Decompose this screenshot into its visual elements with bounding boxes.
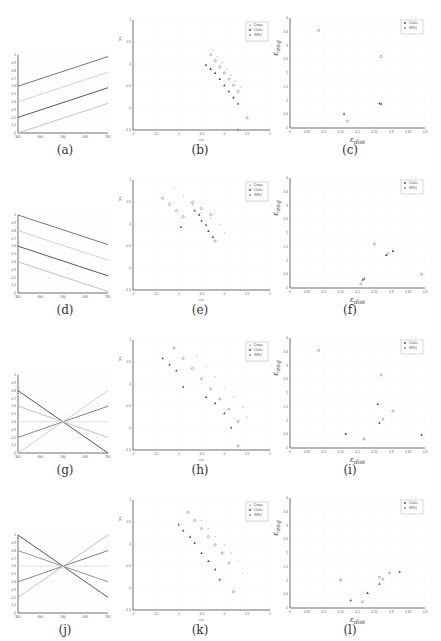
x-tick-label: 0.35 — [405, 610, 411, 614]
chart-f: 00.050.10.150.20.250.30.350.400.511.522.… — [0, 160, 441, 320]
legend-entry: SFU — [409, 505, 417, 510]
x-tick-label: 0.3 — [389, 130, 394, 134]
y-axis-label: εang — [271, 40, 282, 56]
y-axis-label: εang — [271, 520, 282, 536]
x-tick-label: 0 — [289, 290, 291, 294]
x-tick-label: 0.1 — [322, 450, 327, 454]
x-tick-label: 0.35 — [405, 130, 411, 134]
grid — [290, 178, 425, 288]
y-tick-label: 2.5 — [284, 217, 289, 221]
legend: OuluSFU — [401, 20, 423, 34]
y-tick-label: 0.5 — [284, 272, 289, 276]
subfigure-c: 00.050.10.150.20.250.30.350.400.511.522.… — [0, 0, 441, 160]
y-tick-label: 2.5 — [284, 377, 289, 381]
y-tick-label: 3 — [286, 524, 288, 528]
series-sfu — [318, 29, 383, 122]
y-tick-label: 4 — [286, 16, 288, 20]
x-tick-label: 0.15 — [338, 130, 344, 134]
grid — [290, 338, 425, 448]
chart-l: 00.050.10.150.20.250.30.350.400.511.522.… — [0, 480, 441, 640]
x-tick-label: 0.2 — [355, 130, 360, 134]
y-tick-label: 3.5 — [284, 510, 289, 514]
y-tick-label: 1.5 — [284, 85, 289, 89]
y-tick-label: 0 — [286, 126, 288, 130]
y-tick-label: 0 — [286, 606, 288, 610]
grid — [290, 18, 425, 128]
y-tick-label: 3.5 — [284, 350, 289, 354]
x-tick-label: 0.35 — [405, 290, 411, 294]
x-tick-label: 0.1 — [322, 130, 327, 134]
y-tick-label: 1.5 — [284, 405, 289, 409]
caption-i: (i) — [320, 463, 380, 477]
x-tick-label: 0.2 — [355, 450, 360, 454]
subfigure-l: 00.050.10.150.20.250.30.350.400.511.522.… — [0, 480, 441, 640]
y-tick-label: 0.5 — [284, 432, 289, 436]
chart-c: 00.050.10.150.20.250.30.350.400.511.522.… — [0, 0, 441, 160]
chart-i: 00.050.10.150.20.250.30.350.400.511.522.… — [0, 320, 441, 480]
y-axis-label: εang — [271, 200, 282, 216]
series-oulu — [361, 250, 394, 281]
x-tick-label: 0.1 — [322, 290, 327, 294]
grid — [290, 498, 425, 608]
x-tick-label: 0.4 — [423, 450, 428, 454]
y-axis-label: εang — [271, 360, 282, 376]
x-tick-label: 0.3 — [389, 450, 394, 454]
x-tick-label: 0 — [289, 130, 291, 134]
x-tick-label: 0.3 — [389, 610, 394, 614]
legend-entry: SFU — [409, 345, 417, 350]
y-tick-label: 2 — [286, 551, 288, 555]
y-tick-label: 4 — [286, 496, 288, 500]
x-tick-label: 0 — [289, 610, 291, 614]
caption-c: (c) — [320, 143, 380, 157]
x-tick-label: 0.35 — [405, 450, 411, 454]
x-tick-label: 0.15 — [338, 610, 344, 614]
subfigure-i: 00.050.10.150.20.250.30.350.400.511.522.… — [0, 320, 441, 480]
legend-entry: SFU — [409, 25, 417, 30]
x-tick-label: 0.05 — [304, 130, 310, 134]
legend: OuluSFU — [401, 500, 423, 514]
x-tick-label: 0.25 — [371, 450, 377, 454]
y-tick-label: 0.5 — [284, 592, 289, 596]
x-tick-label: 0.1 — [322, 610, 327, 614]
series-sfu — [318, 349, 394, 440]
x-tick-label: 0.4 — [423, 610, 428, 614]
y-tick-label: 1.5 — [284, 565, 289, 569]
y-tick-label: 1 — [286, 99, 288, 103]
y-tick-label: 4 — [286, 336, 288, 340]
caption-f: (f) — [320, 303, 380, 317]
subfigure-f: 00.050.10.150.20.250.30.350.400.511.522.… — [0, 160, 441, 320]
y-tick-label: 3.5 — [284, 30, 289, 34]
x-tick-label: 0.25 — [371, 610, 377, 614]
y-tick-label: 2 — [286, 71, 288, 75]
x-tick-label: 0.05 — [304, 610, 310, 614]
y-tick-label: 2.5 — [284, 57, 289, 61]
y-tick-label: 1 — [286, 419, 288, 423]
y-tick-label: 0 — [286, 446, 288, 450]
y-tick-label: 2.5 — [284, 537, 289, 541]
y-tick-label: 1 — [286, 259, 288, 263]
legend: OuluSFU — [401, 180, 423, 194]
legend: OuluSFU — [401, 340, 423, 354]
x-tick-label: 0.15 — [338, 450, 344, 454]
y-tick-label: 1 — [286, 579, 288, 583]
series-sfu — [340, 572, 391, 603]
y-tick-label: 0.5 — [284, 112, 289, 116]
y-tick-label: 0 — [286, 286, 288, 290]
x-tick-label: 0.4 — [423, 130, 428, 134]
y-tick-label: 3 — [286, 204, 288, 208]
legend-entry: SFU — [409, 185, 417, 190]
series-oulu — [343, 102, 383, 115]
x-tick-label: 0.05 — [304, 290, 310, 294]
y-tick-label: 1.5 — [284, 245, 289, 249]
y-tick-label: 3.5 — [284, 190, 289, 194]
x-tick-label: 0.05 — [304, 450, 310, 454]
y-tick-label: 2 — [286, 391, 288, 395]
y-tick-label: 2 — [286, 231, 288, 235]
x-tick-label: 0.2 — [355, 290, 360, 294]
caption-l: (l) — [320, 623, 380, 637]
x-tick-label: 0.15 — [338, 290, 344, 294]
x-tick-label: 0.3 — [389, 290, 394, 294]
y-tick-label: 3 — [286, 44, 288, 48]
x-tick-label: 0 — [289, 450, 291, 454]
x-tick-label: 0.4 — [423, 290, 428, 294]
